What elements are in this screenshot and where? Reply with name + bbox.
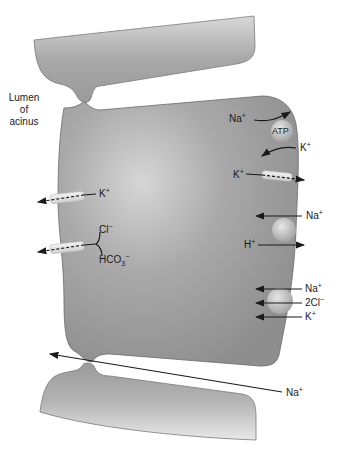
lumen-line3: acinus: [2, 116, 46, 128]
acinar-cell: [58, 96, 298, 366]
nkcc-cl-label: 2Cl−: [305, 298, 324, 308]
pump-k-label: K+: [300, 143, 311, 153]
nkcc-na-label: Na+: [305, 284, 322, 294]
nkcc-k-label: K+: [305, 312, 316, 322]
antiport-na-label: Na+: [306, 211, 323, 221]
acinar-cell-diagram: Lumen of acinus Na+ ATP K+ K+ K+ Cl− HCO…: [0, 0, 343, 452]
cl-label: Cl−: [99, 225, 113, 235]
na-h-exchanger: [272, 218, 296, 242]
apical-k-label: K+: [99, 189, 110, 199]
lumen-label: Lumen of acinus: [2, 92, 46, 128]
hco3-label: HCO3−: [99, 255, 129, 267]
nkcc-cotransporter: [267, 288, 293, 314]
pump-na-label: Na+: [229, 114, 246, 124]
atp-label: ATP: [272, 126, 289, 136]
lumen-line1: Lumen: [2, 92, 46, 104]
lower-cell: [40, 363, 256, 440]
diagram-graphics: [0, 0, 343, 452]
paracellular-na-label: Na+: [286, 388, 303, 398]
antiport-h-label: H+: [244, 240, 255, 250]
basolateral-k-label: K+: [233, 170, 244, 180]
upper-cell: [34, 16, 255, 103]
lumen-line2: of: [2, 104, 46, 116]
